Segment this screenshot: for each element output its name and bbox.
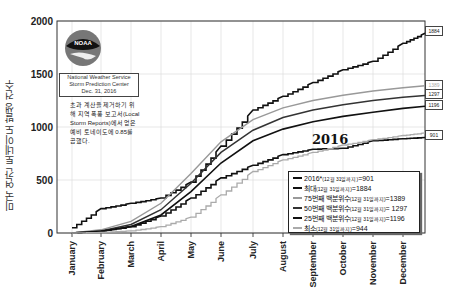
legend-label: 2016*	[304, 175, 322, 182]
noaa-logo: NOAA	[60, 26, 150, 74]
legend-item: 최소(12월 31일까지)=944	[293, 223, 419, 233]
legend: 2016*(12월 31일까지)=901최대(12월 31일까지)=188475…	[288, 171, 420, 233]
legend-label: 25번째 백분위수	[304, 213, 350, 223]
end-label-p25: 1196	[425, 100, 443, 110]
legend-value: =1389	[386, 195, 406, 202]
x-tick-label: February	[96, 241, 106, 280]
legend-swatch	[293, 227, 302, 229]
legend-date-note: (12월 31일까지)	[350, 205, 386, 212]
y-tick-label: 500	[36, 175, 53, 186]
legend-value: =1884	[352, 185, 372, 192]
x-tick-label: January	[67, 241, 77, 276]
y-tick-label: 2000	[31, 16, 54, 27]
x-tick-label: March	[126, 241, 136, 268]
x-tick-label: June	[216, 241, 226, 262]
legend-value: =944	[352, 225, 368, 232]
x-tick-label: July	[248, 241, 258, 259]
legend-date-note: (12월 31일까지)	[350, 215, 386, 222]
x-tick-label: April	[156, 241, 166, 262]
legend-date-note: (12월 31일까지)	[316, 225, 352, 232]
x-tick-label: May	[186, 241, 196, 259]
y-tick-label: 1500	[31, 69, 54, 80]
legend-label: 50번째 백분위수	[304, 203, 350, 213]
legend-swatch	[293, 177, 302, 179]
legend-item: 75번째 백분위수(12월 31일까지)=1389	[293, 193, 419, 203]
x-tick-label: August	[278, 241, 288, 272]
y-tick-label: 1000	[31, 122, 54, 133]
x-tick-label: November	[368, 241, 378, 286]
source-box: National Weather Service Storm Predictio…	[59, 73, 139, 97]
legend-item: 2016*(12월 31일까지)=901	[293, 173, 419, 183]
legend-date-note: (12월 31일까지)	[350, 195, 386, 202]
legend-swatch	[293, 217, 302, 219]
legend-label: 75번째 백분위수	[304, 193, 350, 203]
end-label-max: 1884	[425, 26, 443, 36]
end-label-p50: 1297	[425, 89, 443, 99]
source-line-2: Storm Prediction Center	[60, 81, 138, 88]
legend-swatch	[293, 207, 302, 209]
legend-label: 최소	[304, 223, 316, 233]
legend-date-note: (12월 31일까지)	[316, 185, 352, 192]
x-tick-label: October	[338, 241, 348, 276]
legend-value: =901	[358, 175, 374, 182]
legend-label: 최대	[304, 183, 316, 193]
legend-item: 50번째 백분위수(12월 31일까지)= 1297	[293, 203, 419, 213]
annotation-2016: 2016	[312, 132, 348, 147]
legend-swatch	[293, 187, 302, 189]
methodology-note: 초과 계산을 제거하기 위해 지역 폭풍 보고서(Local Storm Rep…	[70, 101, 140, 146]
legend-value: = 1297	[386, 205, 408, 212]
legend-swatch	[293, 197, 302, 199]
legend-item: 25번째 백분위수(12월 31일까지)=1196	[293, 213, 419, 223]
y-axis-title: 미국 연간 토네이도 발생 건수	[2, 60, 18, 230]
legend-item: 최대(12월 31일까지)=1884	[293, 183, 419, 193]
legend-value: =1196	[386, 215, 405, 222]
x-tick-label: September	[308, 241, 318, 288]
y-tick-label: 0	[47, 228, 53, 239]
source-line-3: Dec. 31, 2016	[60, 88, 138, 95]
end-label-2016: 901	[425, 130, 443, 140]
svg-text:NOAA: NOAA	[74, 40, 92, 46]
source-line-1: National Weather Service	[60, 74, 138, 81]
x-tick-label: December	[398, 241, 408, 285]
legend-date-note: (12월 31일까지)	[322, 175, 358, 182]
